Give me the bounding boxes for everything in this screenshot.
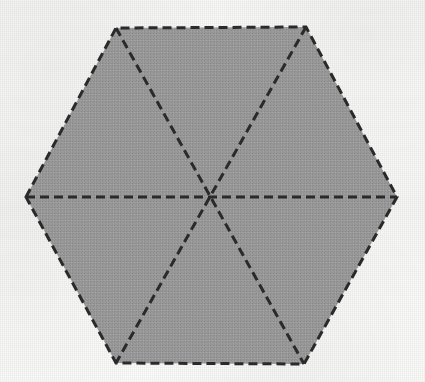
figure-canvas: [0, 0, 425, 382]
hexagon-figure-svg: [0, 0, 425, 382]
